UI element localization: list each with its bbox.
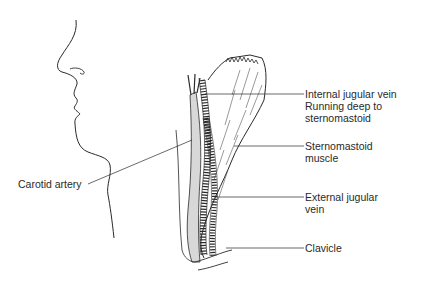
face-profile-outline — [58, 20, 115, 238]
nostril-outline — [70, 68, 84, 74]
muscle-fibres — [214, 68, 262, 200]
label-external-jugular-vein: External jugular vein — [305, 191, 378, 215]
carotid-artery — [187, 92, 201, 262]
label-clavicle: Clavicle — [305, 242, 342, 254]
label-sternomastoid-muscle: Sternomastoid muscle — [305, 140, 373, 164]
internal-jugular-vein — [202, 80, 208, 255]
label-internal-jugular-vein: Internal jugular vein Running deep to st… — [305, 88, 397, 124]
carotid-branches — [188, 74, 200, 95]
label-carotid-artery: Carotid artery — [18, 178, 82, 190]
